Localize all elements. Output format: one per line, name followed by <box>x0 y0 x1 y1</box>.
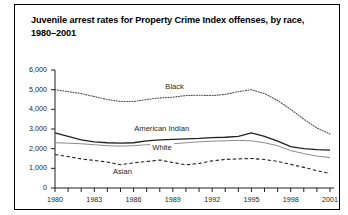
y-axis-tick-label: 1,000 <box>13 163 47 172</box>
y-axis-tick-label: 6,000 <box>13 65 47 74</box>
x-axis-tick-label: 1995 <box>236 195 266 204</box>
y-axis-tick-label: 5,000 <box>13 85 47 94</box>
series-label-american-indian: American Indian <box>132 124 191 133</box>
y-axis-tick-label: 0 <box>13 183 47 192</box>
x-axis-tick-label: 2001 <box>315 195 345 204</box>
y-axis-tick-label: 2,000 <box>13 144 47 153</box>
series-label-asian: Asian <box>111 167 134 176</box>
x-axis-tick-label: 1998 <box>276 195 306 204</box>
y-axis-tick-label: 4,000 <box>13 104 47 113</box>
series-line-american-indian <box>55 133 330 150</box>
series-label-black: Black <box>163 82 186 91</box>
series-line-asian <box>55 155 330 174</box>
x-axis-tick-label: 1980 <box>40 195 70 204</box>
plot-area: 01,0002,0003,0004,0005,0006,000198019831… <box>14 58 340 208</box>
chart-figure: Juvenile arrest rates for Property Crime… <box>0 0 348 215</box>
y-axis-tick-label: 3,000 <box>13 124 47 133</box>
page-title: Juvenile arrest rates for Property Crime… <box>31 14 321 39</box>
x-axis-tick-label: 1992 <box>197 195 227 204</box>
series-label-white: White <box>150 143 173 152</box>
x-axis-tick-label: 1989 <box>158 195 188 204</box>
line-chart-svg <box>14 58 340 208</box>
x-axis-tick-label: 1986 <box>119 195 149 204</box>
series-line-white <box>55 140 330 157</box>
series-line-black <box>55 90 330 134</box>
x-axis-tick-label: 1983 <box>79 195 109 204</box>
